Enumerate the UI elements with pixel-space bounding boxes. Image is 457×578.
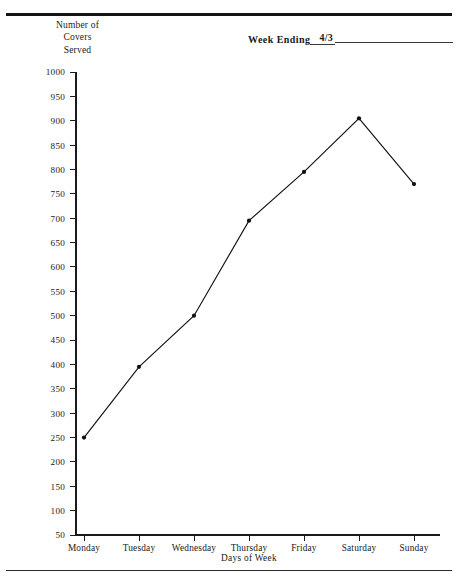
y-tick-label: 350 (51, 384, 66, 394)
data-point-sunday (412, 182, 416, 186)
data-point-wednesday (192, 314, 196, 318)
y-tick-label: 750 (51, 189, 66, 199)
y-tick-label: 1000 (46, 67, 65, 77)
series-markers (82, 116, 416, 439)
x-tick-label-wednesday: Wednesday (172, 543, 217, 553)
data-point-tuesday (137, 365, 141, 369)
y-tick-label: 500 (51, 311, 66, 321)
data-point-friday (302, 170, 306, 174)
x-axis-labels: MondayTuesdayWednesdayThursdayFridaySatu… (68, 543, 429, 553)
y-tick-label: 200 (51, 457, 66, 467)
x-tick-label-thursday: Thursday (231, 543, 268, 553)
y-tick-label: 950 (51, 92, 66, 102)
y-tick-label: 450 (51, 335, 66, 345)
chart-canvas: 1000950900850800750700650600550500450400… (0, 0, 457, 578)
y-tick-label: 250 (51, 433, 66, 443)
x-axis-ticks (84, 535, 414, 541)
y-tick-label: 400 (51, 360, 66, 370)
y-tick-label: 700 (51, 214, 66, 224)
y-tick-label: 100 (51, 506, 66, 516)
x-tick-label-friday: Friday (291, 543, 317, 553)
data-point-monday (82, 435, 86, 439)
x-tick-label-saturday: Saturday (342, 543, 377, 553)
y-tick-label: 550 (51, 287, 66, 297)
axis-lines (76, 72, 440, 535)
y-tick-label: 800 (51, 165, 66, 175)
x-axis-title: Days of Week (221, 553, 277, 563)
data-point-saturday (357, 116, 361, 120)
x-tick-label-monday: Monday (68, 543, 100, 553)
covers-served-line-chart: 1000950900850800750700650600550500450400… (0, 0, 457, 578)
x-tick-label-tuesday: Tuesday (123, 543, 156, 553)
y-tick-label: 300 (51, 409, 66, 419)
y-tick-label: 850 (51, 141, 66, 151)
y-tick-label: 150 (51, 482, 66, 492)
data-point-thursday (247, 219, 251, 223)
y-tick-label: 900 (51, 116, 66, 126)
y-tick-label: 50 (55, 530, 65, 540)
y-tick-label: 650 (51, 238, 66, 248)
x-tick-label-sunday: Sunday (399, 543, 428, 553)
y-axis-ticks: 1000950900850800750700650600550500450400… (46, 67, 76, 540)
series-line-covers (84, 118, 414, 437)
y-tick-label: 600 (51, 262, 66, 272)
